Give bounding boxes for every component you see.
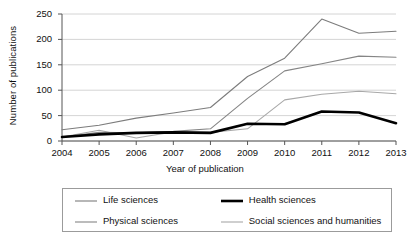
legend-item-label: Physical sciences <box>103 215 178 226</box>
x-tick-label: 2009 <box>231 147 265 158</box>
y-tick-label: 50 <box>22 111 52 121</box>
legend-item-label: Social sciences and humanities <box>249 215 382 226</box>
y-tick-label: 200 <box>22 34 52 44</box>
legend-item-label: Life sciences <box>103 194 158 205</box>
plot-canvas <box>0 0 410 160</box>
y-tick-label: 0 <box>22 136 52 146</box>
x-tick-label: 2005 <box>82 147 116 158</box>
legend-item-label: Health sciences <box>249 194 316 205</box>
axis-lines <box>62 14 396 141</box>
y-tick-label: 100 <box>22 85 52 95</box>
legend-line-swatch <box>75 191 97 209</box>
legend-line-swatch <box>221 212 243 230</box>
x-tick-label: 2006 <box>119 147 153 158</box>
legend-line-swatch <box>75 212 97 230</box>
plot-area: Number of publications 050100150200250 2… <box>0 0 410 160</box>
series-line <box>62 56 396 137</box>
x-tick-label: 2013 <box>379 147 410 158</box>
x-axis-title: Year of publication <box>0 163 410 174</box>
x-tick-label: 2012 <box>342 147 376 158</box>
series-line <box>62 91 396 138</box>
legend-item[interactable]: Health sciences <box>209 191 391 209</box>
legend-item[interactable]: Social sciences and humanities <box>209 212 391 230</box>
legend-line-swatch <box>221 191 243 209</box>
x-tick-label: 2010 <box>268 147 302 158</box>
x-tick-label: 2008 <box>193 147 227 158</box>
y-axis-ticks <box>58 14 62 141</box>
x-axis-ticks <box>62 141 396 145</box>
data-series-layer <box>62 19 396 138</box>
legend-item[interactable]: Life sciences <box>63 191 209 209</box>
x-tick-label: 2004 <box>45 147 79 158</box>
chart-legend: Life sciencesHealth sciencesPhysical sci… <box>62 188 392 232</box>
legend-item[interactable]: Physical sciences <box>63 212 209 230</box>
gridlines <box>62 14 396 141</box>
x-tick-label: 2011 <box>305 147 339 158</box>
line-chart: Number of publications 050100150200250 2… <box>0 0 410 239</box>
y-tick-label: 250 <box>22 9 52 19</box>
y-tick-label: 150 <box>22 60 52 70</box>
x-tick-label: 2007 <box>156 147 190 158</box>
